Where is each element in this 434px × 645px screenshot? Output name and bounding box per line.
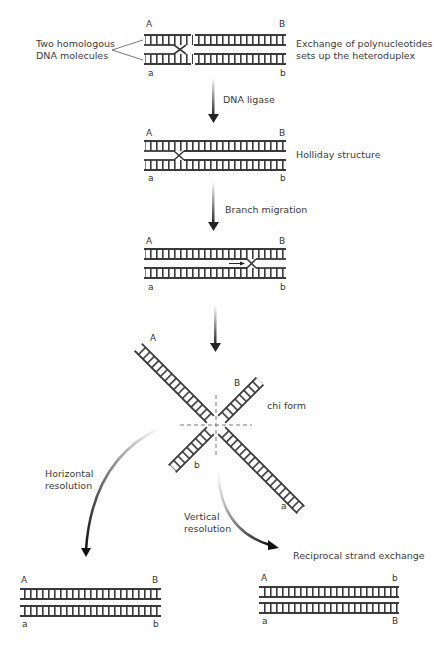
vert-end-B: B xyxy=(392,616,398,626)
arrow-dna-ligase xyxy=(208,78,219,123)
horiz-end-B: B xyxy=(152,575,158,585)
chi-form-label: chi form xyxy=(267,400,306,412)
stage1-end-B: B xyxy=(279,19,285,29)
horizontal-result-dna xyxy=(20,589,161,616)
stage2-end-B: B xyxy=(279,128,285,138)
chi-end-B: B xyxy=(234,378,240,388)
chi-end-A: A xyxy=(150,333,156,343)
vert-end-a: a xyxy=(262,616,268,626)
stage1-end-a: a xyxy=(148,68,154,78)
stage3-end-A: A xyxy=(146,236,152,246)
chi-end-a: a xyxy=(281,501,287,511)
holliday-structure-label: Holliday structure xyxy=(296,149,380,161)
stage1-end-A: A xyxy=(146,19,152,29)
two-homologous-label: Two homologous DNA molecules xyxy=(36,38,115,62)
diagram-canvas xyxy=(0,0,434,645)
vert-end-A: A xyxy=(261,573,267,583)
arrow-branch-migration xyxy=(208,182,219,231)
horiz-end-b: b xyxy=(153,619,159,629)
chi-end-b: b xyxy=(194,460,200,470)
arrow-to-chi-form xyxy=(210,305,221,352)
stage3-end-a: a xyxy=(148,282,154,292)
stage2-end-a: a xyxy=(148,173,154,183)
stage2-end-b: b xyxy=(280,173,286,183)
dna-ligase-label: DNA ligase xyxy=(223,94,275,106)
stage2-holliday-structure xyxy=(144,141,286,170)
horiz-end-A: A xyxy=(21,575,27,585)
horizontal-resolution-label: Horizontal resolution xyxy=(45,468,94,492)
horiz-end-a: a xyxy=(22,619,28,629)
stage3-end-b: b xyxy=(280,282,286,292)
arrow-horizontal-resolution xyxy=(81,428,160,557)
exchange-label: Exchange of polynucleotides sets up the … xyxy=(296,38,432,62)
vert-end-b: b xyxy=(392,573,398,583)
vertical-resolution-label: Vertical resolution xyxy=(184,511,231,535)
branch-migration-label: Branch migration xyxy=(225,204,307,216)
stage1-dna-pair xyxy=(112,35,286,64)
stage2-end-A: A xyxy=(146,128,152,138)
stage1-end-b: b xyxy=(280,68,286,78)
vertical-result-dna xyxy=(259,587,399,613)
reciprocal-strand-exchange-label: Reciprocal strand exchange xyxy=(293,550,425,562)
stage3-branch-migration xyxy=(144,249,286,278)
stage3-end-B: B xyxy=(279,236,285,246)
